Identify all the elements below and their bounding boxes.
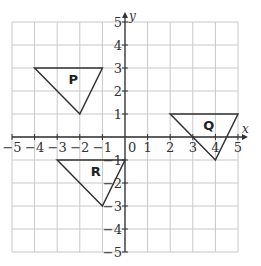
y-axis-label: y — [128, 9, 136, 23]
y-tick-label: 1 — [114, 107, 122, 122]
y-tick-label: −4 — [103, 222, 122, 237]
y-tick-label: 2 — [114, 84, 122, 99]
x-tick-label: −2 — [70, 140, 89, 155]
triangle-label-p: P — [69, 72, 79, 87]
x-tick-label: 2 — [166, 140, 174, 155]
y-tick-label: −5 — [103, 245, 122, 260]
y-tick-label: 3 — [114, 61, 122, 76]
y-tick-label: −2 — [103, 176, 122, 191]
triangle-label-q: Q — [203, 118, 214, 133]
x-tick-label: 5 — [234, 140, 242, 155]
coordinate-grid: xy −5−4−3−2−11234554321−1−2−3−4−50 PQR — [0, 0, 261, 266]
y-tick-label: −3 — [103, 199, 122, 214]
y-tick-label: 4 — [114, 38, 122, 53]
x-tick-label: 1 — [143, 140, 151, 155]
y-axis-arrow-icon — [122, 12, 128, 18]
x-tick-label: 3 — [189, 140, 197, 155]
origin-label: 0 — [128, 140, 136, 155]
x-tick-label: −3 — [48, 140, 67, 155]
y-tick-label: 5 — [114, 15, 122, 30]
x-tick-label: −5 — [2, 140, 21, 155]
triangle-label-r: R — [91, 164, 101, 179]
x-tick-label: −4 — [25, 140, 44, 155]
x-axis-label: x — [242, 122, 249, 136]
